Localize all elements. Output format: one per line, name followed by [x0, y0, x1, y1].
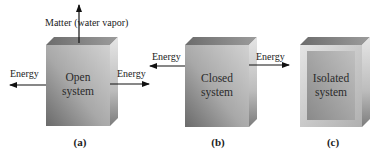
systems-diagram: Open system Matter (water vapor) Energy …: [0, 0, 381, 154]
closed-system-panel: Closed system Energy Energy (b): [150, 37, 289, 149]
open-energy-left-label: Energy: [10, 68, 39, 79]
closed-system-label-line2: system: [201, 86, 233, 99]
open-system-label-line2: system: [62, 85, 94, 98]
caption-c: (c): [327, 136, 340, 149]
closed-energy-left-label: Energy: [152, 51, 181, 62]
box-side-face: [110, 37, 118, 126]
open-system-panel: Open system Matter (water vapor) Energy …: [10, 5, 149, 149]
isolated-system-label-line2: system: [315, 86, 347, 99]
isolated-system-label-line1: Isolated: [313, 72, 350, 84]
caption-b: (b): [211, 136, 225, 149]
closed-energy-right-label: Energy: [256, 51, 285, 62]
box-top-face: [46, 37, 118, 45]
caption-a: (a): [74, 136, 87, 149]
isolated-system-panel: Isolated system (c): [300, 37, 370, 149]
open-system-label-line1: Open: [66, 71, 91, 84]
closed-system-label-line1: Closed: [201, 72, 233, 84]
box-side-face: [362, 37, 370, 127]
matter-label: Matter (water vapor): [45, 17, 128, 29]
box-top-face: [185, 37, 257, 45]
box-top-face: [300, 37, 370, 45]
open-energy-right-label: Energy: [117, 68, 146, 79]
